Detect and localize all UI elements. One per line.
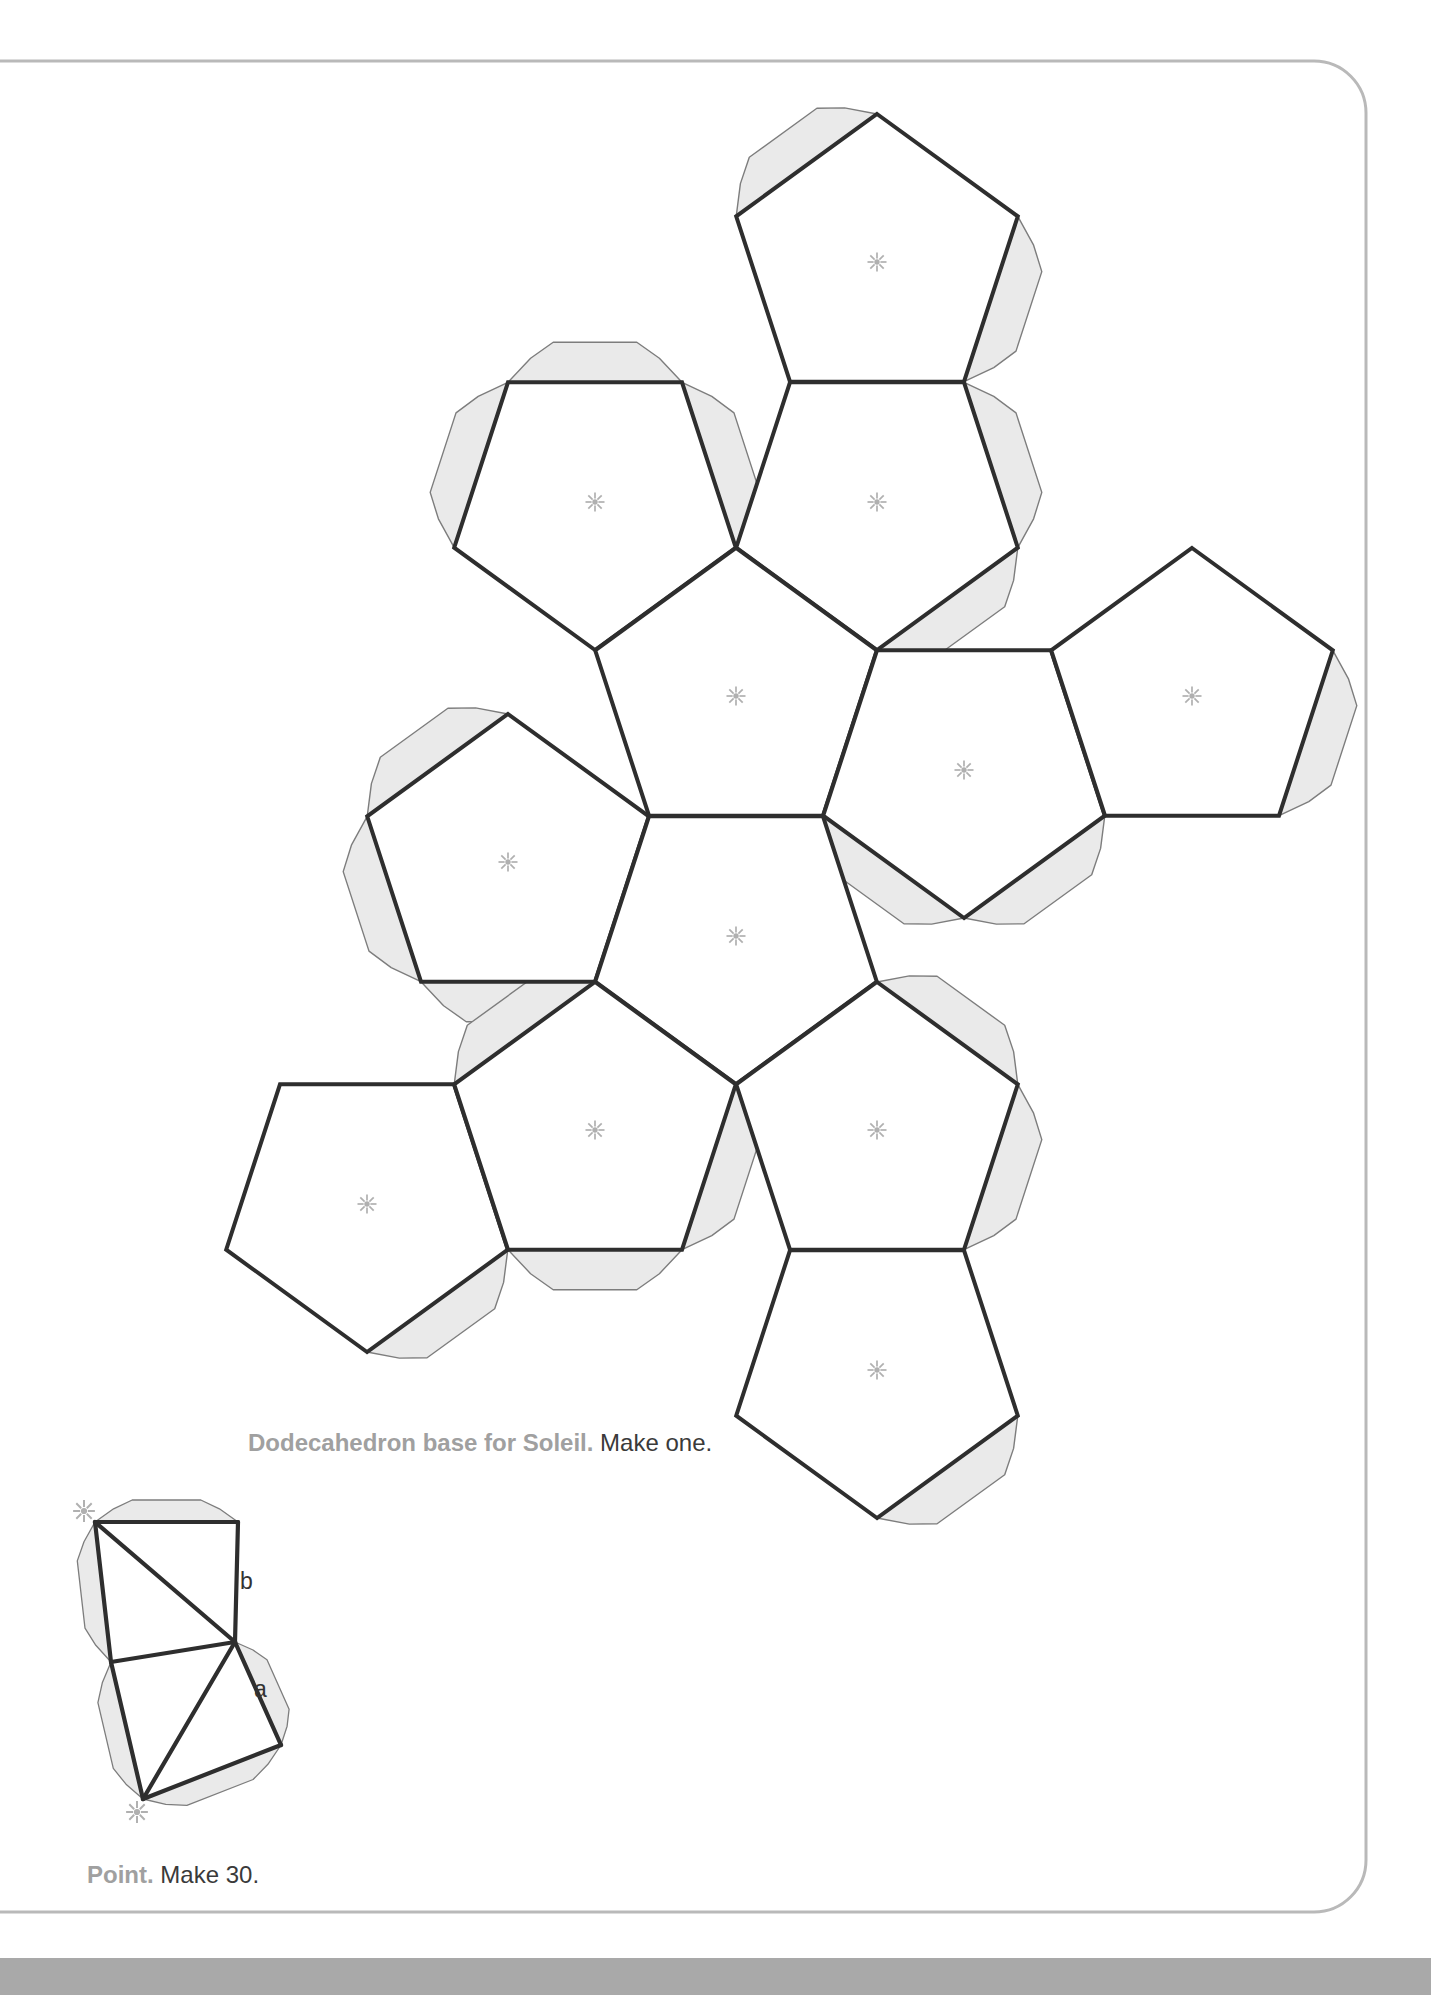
- asterisk-mark: [955, 761, 974, 780]
- asterisk-mark: [586, 493, 605, 512]
- point-glue-tab: [95, 1500, 238, 1522]
- asterisk-mark: [727, 687, 746, 706]
- asterisk-mark: [727, 927, 746, 946]
- point-edge: [111, 1642, 235, 1662]
- asterisk-mark: [868, 493, 887, 512]
- asterisk-mark: [586, 1121, 605, 1140]
- point-caption-title: Point.: [87, 1861, 154, 1888]
- point-glue-tab: [77, 1522, 111, 1662]
- glue-flap: [508, 342, 682, 382]
- asterisk-mark: [868, 253, 887, 272]
- asterisk-mark: [126, 1801, 148, 1823]
- asterisk-mark: [868, 1361, 887, 1380]
- book-page: Dodecahedron base for Soleil. Make one. …: [0, 0, 1431, 1995]
- dodecahedron-caption: Dodecahedron base for Soleil. Make one.: [248, 1429, 712, 1457]
- dodecahedron-net-diagram: [0, 0, 1431, 1995]
- asterisk-mark: [499, 853, 518, 872]
- edge-label-a: a: [254, 1676, 267, 1703]
- point-edge: [95, 1522, 235, 1642]
- page-footer-bar: [0, 1958, 1431, 1995]
- dodecahedron-caption-title: Dodecahedron base for Soleil.: [248, 1429, 593, 1456]
- glue-flap: [508, 1250, 682, 1290]
- edge-label-b: b: [240, 1568, 253, 1595]
- point-caption-instruction: Make 30.: [160, 1861, 259, 1888]
- asterisk-mark: [73, 1500, 95, 1522]
- asterisk-mark: [868, 1121, 887, 1140]
- asterisk-mark: [1183, 687, 1202, 706]
- point-caption: Point. Make 30.: [87, 1861, 259, 1889]
- asterisk-mark: [358, 1195, 377, 1214]
- dodecahedron-caption-instruction: Make one.: [600, 1429, 712, 1456]
- point-edge: [235, 1522, 238, 1642]
- pentagon-face: [1051, 548, 1333, 816]
